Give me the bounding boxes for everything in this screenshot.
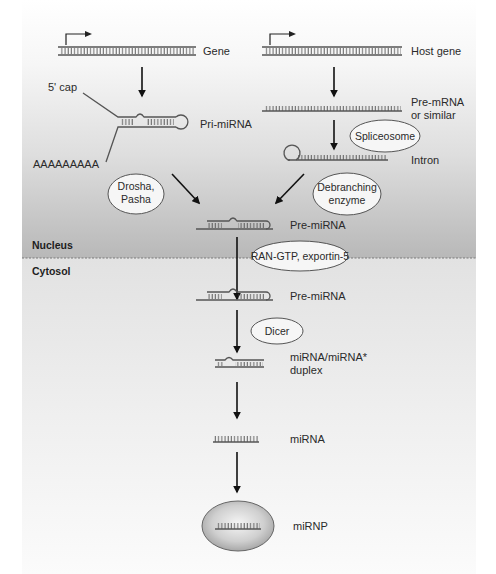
debranching-label-2: enzyme — [329, 194, 366, 206]
intron-label: Intron — [411, 154, 439, 166]
pre-mrna-strand — [262, 106, 402, 111]
cytosol-label: Cytosol — [32, 265, 71, 277]
mirna-strand — [213, 436, 259, 442]
gene-label: Gene — [203, 45, 230, 57]
mirna-label: miRNA — [290, 433, 325, 445]
pre-mirna-nucleus-label: Pre-miRNA — [290, 219, 346, 231]
five-cap-label: 5' cap — [48, 81, 77, 93]
nucleus-label: Nucleus — [32, 239, 73, 251]
mirna-pathway-diagram: Nucleus Cytosol Gene 5' cap Pri-miRNA AA… — [0, 0, 496, 574]
spliceosome-label: Spliceosome — [355, 130, 415, 142]
host-gene-label: Host gene — [411, 45, 461, 57]
mirnp-label: miRNP — [293, 520, 328, 532]
pre-mrna-label-1: Pre-mRNA — [411, 96, 465, 108]
pre-mirna-cytosol-label: Pre-miRNA — [290, 290, 346, 302]
export-label: RAN-GTP, exportin-5 — [251, 250, 350, 262]
dicer-label: Dicer — [265, 325, 290, 337]
debranching-label-1: Debranching — [317, 181, 377, 193]
pasha-label: Pasha — [121, 193, 151, 205]
duplex-label-2: duplex — [290, 364, 323, 376]
duplex-label-1: miRNA/miRNA* — [290, 351, 368, 363]
pri-mirna-label: Pri-miRNA — [200, 118, 253, 130]
mirnp-mirna-strand — [215, 523, 261, 529]
polya-tail-label: AAAAAAAAA — [33, 158, 100, 170]
drosha-label: Drosha, — [118, 180, 155, 192]
pre-mrna-label-2: or similar — [411, 109, 456, 121]
